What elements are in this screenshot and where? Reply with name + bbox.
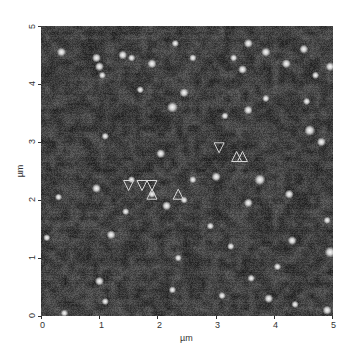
x-tick-mark xyxy=(332,316,333,319)
x-tick-label-3: 3 xyxy=(215,321,220,330)
marker-overlay xyxy=(41,26,333,316)
y-tick-label-4: 4 xyxy=(28,79,37,89)
up-triangle-marker-icon xyxy=(173,189,183,199)
x-tick-label-4: 4 xyxy=(273,321,278,330)
x-tick-label-0: 0 xyxy=(40,321,45,330)
x-tick-label-2: 2 xyxy=(157,321,162,330)
y-tick-label-5: 5 xyxy=(28,22,37,32)
x-tick-mark xyxy=(216,316,217,319)
x-tick-mark xyxy=(99,316,100,319)
afm-figure: µm µm 0 1 2 3 4 5 0 1 2 3 4 5 xyxy=(0,0,354,354)
y-tick-label-1: 1 xyxy=(28,253,37,263)
y-tick-label-3: 3 xyxy=(28,137,37,147)
x-tick-mark xyxy=(41,316,42,319)
y-tick-label-2: 2 xyxy=(28,195,37,205)
down-triangle-marker-icon xyxy=(214,143,224,153)
x-axis-title: µm xyxy=(180,333,193,343)
y-tick-label-0: 0 xyxy=(28,311,37,321)
x-tick-label-5: 5 xyxy=(331,321,336,330)
afm-topography-image xyxy=(41,26,333,316)
down-triangle-marker-icon xyxy=(124,181,134,191)
x-tick-mark xyxy=(274,316,275,319)
x-tick-mark xyxy=(157,316,158,319)
y-axis-title: µm xyxy=(15,165,25,178)
x-tick-label-1: 1 xyxy=(99,321,104,330)
down-triangle-marker-icon xyxy=(137,181,147,191)
